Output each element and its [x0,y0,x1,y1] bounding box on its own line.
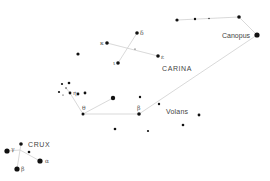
constellation-label-carina: CARINA [162,65,192,72]
star-dot [147,130,149,132]
star-dot [116,61,120,65]
greek-label-beta-carina: β [137,105,140,111]
star-dot [114,128,117,131]
star-dot [37,158,42,163]
constellation-label-volans: Volans [166,108,188,115]
greek-label-kappa: κ [100,40,104,46]
star-dot [137,112,141,116]
star-dot [14,166,19,171]
constellation-line [107,43,158,56]
star-dot [68,82,71,85]
star-dot [182,124,185,127]
star-dot [237,15,241,19]
constellation-line [118,33,137,63]
constellation-line [177,17,239,20]
greek-label-iota: ι [113,60,115,66]
star-dot [19,142,23,146]
constellation-line [17,150,20,169]
greek-label-alpha-crux: α [45,158,49,164]
star-dot [254,32,259,37]
star-dot [158,103,160,105]
star-dot [76,52,79,55]
star-dot [105,41,109,45]
star-dot [84,92,87,95]
star-chart [0,0,270,181]
greek-label-beta-crux: β [21,166,24,172]
greek-label-theta: θ [82,105,86,111]
star-dot [77,93,80,96]
greek-label-eta: η [73,90,77,96]
star-dot [61,83,63,85]
star-dot [134,48,135,49]
greek-label-epsilon: ε [161,54,164,60]
star-dot [198,114,201,117]
star-dot [175,18,178,21]
star-dot [111,96,115,100]
star-dot [28,151,31,154]
greek-label-delta: δ [140,30,144,36]
star-dot [194,18,196,20]
star-dot [208,18,209,19]
star-dot [156,54,160,58]
star-dot [4,148,9,153]
constellation-line [139,35,257,114]
constellation-label-crux: CRUX [28,141,50,148]
greek-label-gamma-crux: γ [11,146,15,152]
star-dot [65,87,66,88]
star-label-canopus: Canopus [222,32,250,39]
star-dot [139,96,141,98]
star-dot [58,91,60,93]
star-dot [62,94,63,95]
constellation-line [83,98,113,114]
star-dot [82,113,85,116]
star-dot [135,31,139,35]
star-dot [69,92,72,95]
